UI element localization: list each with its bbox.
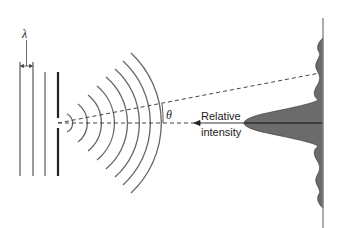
angle-arc xyxy=(162,104,163,123)
intensity-label-line1: Relative xyxy=(201,110,241,122)
wavelength-marker xyxy=(21,40,33,68)
intensity-label-line2: intensity xyxy=(201,126,241,138)
angle-label: θ xyxy=(166,109,172,121)
wavelength-label: λ xyxy=(22,28,27,40)
incident-wavefronts xyxy=(20,62,45,176)
